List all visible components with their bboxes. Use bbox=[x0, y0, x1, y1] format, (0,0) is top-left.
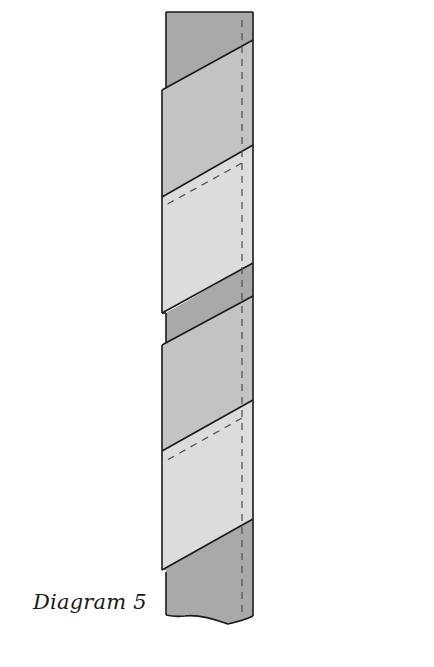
diagram-illustration bbox=[0, 0, 434, 667]
diagram-caption: Diagram 5 bbox=[33, 590, 147, 614]
